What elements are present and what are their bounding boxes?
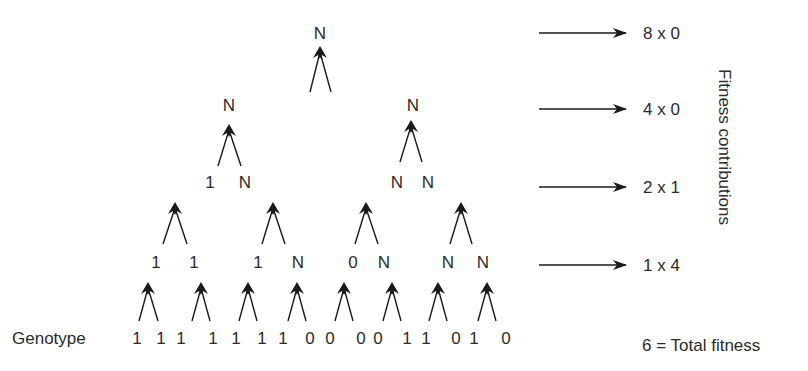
merge-arrow-icon [450, 202, 472, 244]
merge-arrow-icon [310, 46, 331, 92]
tree-node-level-4: N [314, 25, 326, 42]
tree-node-level-2: N [239, 174, 251, 191]
tree-node-level-2: 1 [205, 174, 214, 191]
genotype-allele: 1 [257, 330, 266, 347]
tree-node-level-1: N [442, 254, 454, 271]
tree-node-level-1: 0 [348, 254, 357, 271]
merge-arrow-icon [383, 282, 401, 321]
fitness-contributions-axis-label: Fitness contributions [716, 69, 733, 225]
fitness-contribution-value: 8 x 0 [643, 25, 680, 42]
merge-arrow-icon [239, 282, 257, 321]
tree-node-level-3: N [223, 97, 235, 114]
genotype-allele: 0 [501, 330, 510, 347]
fitness-diagram: 1111111000011010111N0NNN1NNNNNN8 x 04 x … [0, 0, 808, 371]
genotype-allele: 1 [156, 330, 165, 347]
genotype-allele: 0 [325, 330, 334, 347]
total-fitness-label: 6 = Total fitness [642, 337, 760, 354]
tree-node-level-2: N [422, 174, 434, 191]
genotype-allele: 0 [356, 330, 365, 347]
tree-node-level-1: 1 [189, 254, 198, 271]
merge-arrow-icon [139, 282, 158, 321]
merge-arrow-icon [288, 282, 306, 321]
genotype-allele: 1 [421, 330, 430, 347]
tree-node-level-1: N [292, 254, 304, 271]
genotype-label: Genotype [12, 330, 86, 347]
merge-arrow-icon [335, 282, 353, 321]
tree-arrows-layer [0, 0, 808, 371]
genotype-allele: 0 [451, 330, 460, 347]
fitness-contribution-value: 4 x 0 [643, 101, 680, 118]
genotype-allele: 1 [402, 330, 411, 347]
merge-arrow-icon [218, 124, 241, 166]
genotype-allele: 1 [176, 330, 185, 347]
genotype-allele: 0 [305, 330, 314, 347]
genotype-allele: 0 [373, 330, 382, 347]
fitness-contribution-value: 1 x 4 [643, 257, 680, 274]
tree-node-level-1: 1 [151, 254, 160, 271]
genotype-allele: 1 [208, 330, 217, 347]
genotype-allele: 1 [278, 330, 287, 347]
tree-node-level-3: N [407, 97, 419, 114]
tree-node-level-1: N [378, 254, 390, 271]
merge-arrow-icon [262, 202, 285, 244]
merge-arrow-icon [192, 282, 210, 321]
genotype-allele: 1 [469, 330, 478, 347]
merge-arrow-icon [163, 202, 187, 244]
genotype-allele: 1 [231, 330, 240, 347]
merge-arrow-icon [478, 282, 496, 321]
tree-node-level-1: 1 [253, 254, 262, 271]
genotype-allele: 1 [132, 330, 141, 347]
merge-arrow-icon [400, 120, 422, 162]
tree-node-level-2: N [391, 174, 403, 191]
merge-arrow-icon [429, 282, 447, 321]
merge-arrow-icon [355, 202, 378, 244]
tree-node-level-1: N [477, 254, 489, 271]
fitness-contribution-value: 2 x 1 [643, 179, 680, 196]
